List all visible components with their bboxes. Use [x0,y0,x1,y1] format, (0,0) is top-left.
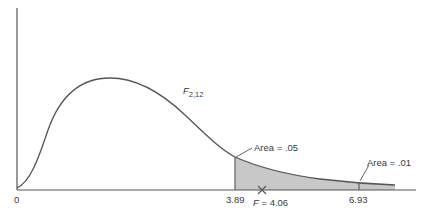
area-05-pointer [236,148,252,157]
area-05-label: Area = .05 [254,142,298,153]
observed-f-label: F = 4.06 [253,197,288,208]
x-tick-0: 0 [14,194,19,205]
curve-label: F2,12 [183,85,203,99]
x-tick-389: 3.89 [226,194,245,205]
f-distribution-chart: F2,12 Area = .05 Area = .01 0 3.89 6.93 … [0,0,426,214]
area-01-label: Area = .01 [367,157,411,168]
density-curve [17,78,395,188]
x-tick-693: 6.93 [349,194,368,205]
